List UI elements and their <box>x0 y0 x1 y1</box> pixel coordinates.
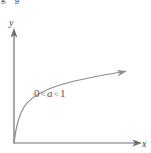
y-axis-label: y <box>9 18 13 28</box>
annotation-lower-bound: 0 <box>34 87 40 99</box>
x-axis-label: x <box>142 139 151 149</box>
curve-range-annotation: 0<a<1 <box>34 87 66 101</box>
log-curve-path <box>14 72 121 143</box>
annotation-variable: a <box>47 87 53 99</box>
annotation-right-relation: < <box>53 89 60 99</box>
annotation-left-relation: < <box>40 89 47 99</box>
annotation-upper-bound: 1 <box>60 87 66 99</box>
logarithmic-curve-figure: g g y x 0<a<1 <box>0 0 151 153</box>
curve-arrow-icon <box>117 70 127 77</box>
graph-canvas <box>0 0 151 153</box>
